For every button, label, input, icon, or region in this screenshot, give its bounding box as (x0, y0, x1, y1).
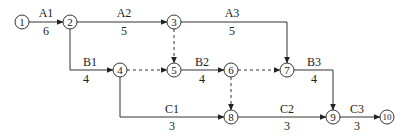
activity-duration-B3: 4 (311, 72, 317, 86)
node-7-label: 7 (284, 64, 290, 76)
activity-duration-A3: 5 (229, 24, 235, 38)
node-9: 9 (326, 110, 340, 124)
node-6: 6 (224, 63, 238, 77)
activity-duration-B1: 4 (83, 72, 89, 86)
node-1-label: 1 (19, 16, 25, 28)
node-10: 10 (380, 110, 394, 124)
activity-duration-C1: 3 (169, 119, 175, 133)
node-3-label: 3 (171, 16, 177, 28)
node-2: 2 (63, 15, 77, 29)
activity-name-C3: C3 (350, 102, 364, 116)
node-4-label: 4 (117, 64, 123, 76)
activity-duration-A2: 5 (121, 24, 127, 38)
node-3: 3 (167, 15, 181, 29)
activity-name-A1: A1 (39, 6, 54, 20)
node-2-label: 2 (67, 16, 73, 28)
activity-duration-C2: 3 (284, 119, 290, 133)
activity-duration-B2: 4 (199, 72, 205, 86)
activity-name-C1: C1 (165, 102, 179, 116)
activity-name-C2: C2 (280, 102, 294, 116)
node-5: 5 (167, 63, 181, 77)
node-6-label: 6 (228, 64, 234, 76)
node-9-label: 9 (330, 111, 336, 123)
activity-name-B2: B2 (195, 55, 209, 69)
node-8: 8 (224, 110, 238, 124)
activity-duration-A1: 6 (43, 24, 49, 38)
node-10-label: 10 (383, 112, 393, 122)
node-7: 7 (280, 63, 294, 77)
activity-name-A3: A3 (225, 6, 240, 20)
node-8-label: 8 (228, 111, 234, 123)
node-5-label: 5 (171, 64, 177, 76)
activity-name-B1: B1 (83, 55, 97, 69)
network-diagram: A1 6 A2 5 A3 5 B1 4 B2 4 B3 4 C1 3 C2 3 … (0, 0, 403, 137)
node-4: 4 (113, 63, 127, 77)
node-1: 1 (15, 15, 29, 29)
activity-name-B3: B3 (307, 55, 321, 69)
activity-name-A2: A2 (117, 6, 132, 20)
activity-duration-C3: 3 (354, 119, 360, 133)
